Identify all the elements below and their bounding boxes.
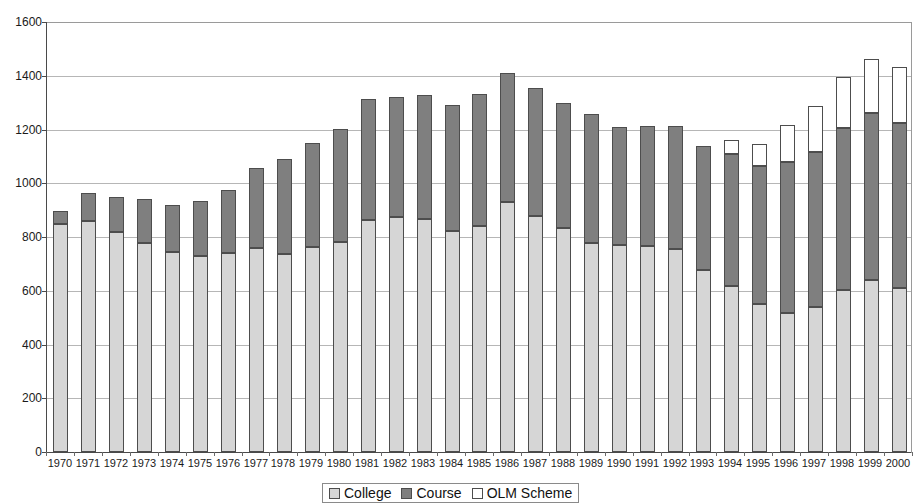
bar-segment-college[interactable] (752, 304, 767, 452)
bar-segment-college[interactable] (361, 220, 376, 452)
x-tick (465, 452, 466, 456)
legend-swatch-icon (401, 488, 412, 499)
y-tick-label-200: 200 (2, 392, 42, 404)
bar-segment-course[interactable] (472, 94, 487, 226)
x-tick (74, 452, 75, 456)
bar-segment-olm[interactable] (836, 77, 851, 129)
bar-segment-course[interactable] (333, 129, 348, 242)
bar-segment-college[interactable] (472, 226, 487, 452)
x-tick (130, 452, 131, 456)
bar-segment-course[interactable] (584, 114, 599, 242)
bar-segment-college[interactable] (53, 224, 68, 452)
bar-segment-college[interactable] (277, 254, 292, 452)
x-tick (269, 452, 270, 456)
bar-segment-college[interactable] (221, 253, 236, 452)
bar-segment-course[interactable] (221, 190, 236, 252)
bar-segment-college[interactable] (808, 307, 823, 452)
x-tick (828, 452, 829, 456)
bar-segment-college[interactable] (864, 280, 879, 452)
bar-segment-college[interactable] (612, 245, 627, 452)
bar-segment-olm[interactable] (752, 144, 767, 166)
bar-segment-college[interactable] (333, 242, 348, 452)
bar-segment-course[interactable] (445, 105, 460, 231)
bar-segment-course[interactable] (81, 193, 96, 221)
x-tick (186, 452, 187, 456)
bar-segment-college[interactable] (528, 216, 543, 453)
bar-segment-college[interactable] (668, 249, 683, 452)
bar-segment-course[interactable] (556, 103, 571, 228)
x-tick (716, 452, 717, 456)
bar-segment-course[interactable] (249, 168, 264, 248)
bar-segment-course[interactable] (361, 99, 376, 220)
legend-label: Course (416, 485, 461, 501)
bar-segment-course[interactable] (53, 211, 68, 224)
x-tick (437, 452, 438, 456)
bar-segment-course[interactable] (417, 95, 432, 219)
bar-segment-course[interactable] (137, 199, 152, 243)
bar-segment-course[interactable] (500, 73, 515, 203)
bar-segment-college[interactable] (109, 232, 124, 452)
bar-segment-college[interactable] (193, 256, 208, 452)
bar-segment-olm[interactable] (864, 59, 879, 113)
bar-segment-college[interactable] (389, 217, 404, 452)
bar-segment-college[interactable] (584, 243, 599, 452)
bar-segment-college[interactable] (640, 246, 655, 452)
bar-series-layer (46, 22, 912, 452)
bar-segment-college[interactable] (500, 202, 515, 452)
bar-segment-course[interactable] (668, 126, 683, 249)
bar-segment-college[interactable] (249, 248, 264, 452)
x-tick (605, 452, 606, 456)
y-axis-labels: 02004006008001000120014001600 (0, 22, 42, 453)
bar-segment-course[interactable] (109, 197, 124, 231)
bar-segment-course[interactable] (305, 143, 320, 247)
bar-segment-olm[interactable] (808, 106, 823, 152)
x-tick (214, 452, 215, 456)
bar-segment-college[interactable] (137, 243, 152, 452)
x-tick (325, 452, 326, 456)
bar-segment-course[interactable] (612, 127, 627, 245)
bar-segment-olm[interactable] (780, 125, 795, 161)
bar-segment-college[interactable] (836, 290, 851, 452)
bar-segment-college[interactable] (417, 219, 432, 452)
bar-segment-college[interactable] (696, 270, 711, 452)
bar-segment-course[interactable] (193, 201, 208, 256)
bar-segment-college[interactable] (724, 286, 739, 452)
bar-segment-course[interactable] (277, 159, 292, 254)
legend-item: OLM Scheme (472, 485, 573, 501)
bar-segment-olm[interactable] (892, 67, 907, 123)
bar-segment-olm[interactable] (724, 140, 739, 154)
bar-segment-course[interactable] (528, 88, 543, 216)
x-tick (353, 452, 354, 456)
bar-segment-course[interactable] (780, 162, 795, 313)
bar-segment-course[interactable] (724, 154, 739, 286)
x-tick (493, 452, 494, 456)
x-tick (577, 452, 578, 456)
bar-segment-college[interactable] (165, 252, 180, 452)
bar-segment-course[interactable] (165, 205, 180, 252)
bar-segment-college[interactable] (780, 313, 795, 452)
bar-segment-college[interactable] (305, 247, 320, 452)
bar-segment-course[interactable] (389, 97, 404, 217)
bar-segment-course[interactable] (864, 113, 879, 280)
legend-label: OLM Scheme (487, 485, 573, 501)
bar-segment-college[interactable] (556, 228, 571, 452)
bar-segment-course[interactable] (640, 126, 655, 246)
x-tick (409, 452, 410, 456)
bar-segment-college[interactable] (892, 288, 907, 452)
x-tick (297, 452, 298, 456)
bar-segment-course[interactable] (696, 146, 711, 270)
bar-segment-college[interactable] (81, 221, 96, 452)
bar-segment-course[interactable] (752, 166, 767, 304)
x-tick (912, 452, 913, 456)
x-tick (661, 452, 662, 456)
y-tick-label-1400: 1400 (2, 70, 42, 82)
x-tick (884, 452, 885, 456)
bar-segment-course[interactable] (836, 128, 851, 290)
x-tick (856, 452, 857, 456)
bar-segment-course[interactable] (808, 152, 823, 307)
x-tick (744, 452, 745, 456)
x-tick (242, 452, 243, 456)
bar-segment-college[interactable] (445, 231, 460, 452)
bar-segment-course[interactable] (892, 123, 907, 287)
